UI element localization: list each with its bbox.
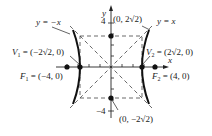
y-tick-top-label: 4 bbox=[101, 16, 106, 26]
top-point-label: (0, 2√2) bbox=[113, 14, 142, 24]
top-point bbox=[108, 33, 113, 38]
y-axis-arrow-icon bbox=[109, 5, 113, 11]
vertex-v2-point bbox=[139, 64, 144, 69]
bottom-point-label: (0, −2√2) bbox=[119, 114, 153, 124]
y-tick-bottom-label: −4 bbox=[96, 106, 106, 116]
vertex-v1-point bbox=[77, 64, 82, 69]
v1-label: V1 = (−2√2, 0) bbox=[12, 47, 64, 58]
asymptote-pos-label: y = x bbox=[156, 16, 176, 26]
x-axis-arrow-icon bbox=[163, 65, 169, 69]
f2-label: F2 = (4, 0) bbox=[151, 71, 190, 82]
focus-f1-point bbox=[64, 64, 69, 69]
f1-label: F1 = (−4, 0) bbox=[19, 71, 63, 82]
v2-label: V2 = (2√2, 0) bbox=[146, 47, 193, 58]
bottom-point bbox=[108, 95, 113, 100]
hyperbola-diagram: y 4 −4 x y = −x y = x (0, 2√2) (0, −2√2)… bbox=[0, 0, 212, 136]
asymptote-neg-label: y = −x bbox=[35, 17, 61, 27]
focus-f2-point bbox=[152, 64, 157, 69]
